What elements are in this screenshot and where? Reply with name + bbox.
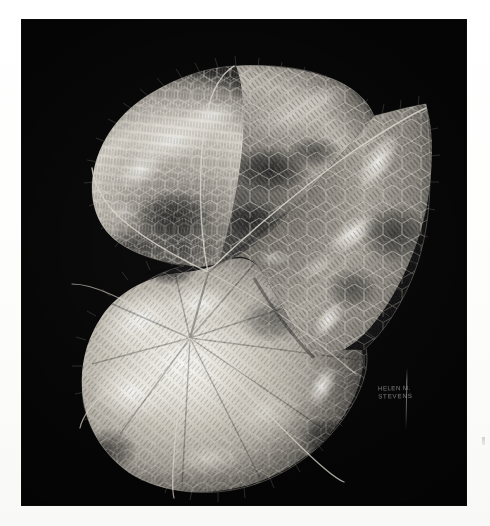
panel-right-shadow: [464, 20, 467, 505]
margin-mark: [482, 437, 485, 445]
panel-bottom-shadow: [22, 503, 466, 506]
leaf-svg: [22, 20, 466, 505]
leaf-illustration: [22, 20, 466, 505]
artwork-page: Helen M. Stevens: [0, 0, 490, 526]
artwork-panel: Helen M. Stevens: [22, 20, 466, 505]
